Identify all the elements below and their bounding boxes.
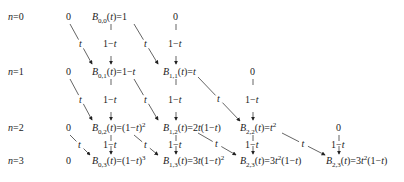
edge-label-one-minus-t: 1−t [245,95,258,105]
edge-label-t: t [144,95,147,105]
zero-node: 0 [66,123,71,133]
zero-node: 0 [173,12,178,22]
node-b02: B0,2(t)=(1−t)2 [92,123,146,133]
node-b22: B2,2(t)=t2 [240,123,276,133]
node-b12: B1,2(t)=2t(1−t) [163,123,221,133]
edge-label-one-minus-t: 1−t [168,95,181,105]
edge-label-t: t [78,140,81,150]
node-b23: B2,3(t)=3t2(1−t) [240,156,301,166]
row-label-n3: n=3 [8,156,24,166]
edge-label-one-minus-t: 1−t [103,95,116,105]
edge-label-one-minus-t: 1−t [103,39,116,49]
edge-label-one-minus-t: 1−t [168,39,181,49]
node-b11: B1,1(t)=t [163,67,196,77]
row-label-n1: n=1 [8,67,24,77]
edge-label-t: t [144,140,147,150]
edge-label-t: t [144,39,147,49]
edge-label-one-minus-t: 1−t [331,140,344,150]
row-label-n0: n=0 [8,12,24,22]
edge-label-one-minus-t: 1−t [103,140,116,150]
edge-label-one-minus-t: 1−t [168,140,181,150]
edge-label-one-minus-t: 1−t [245,140,258,150]
edge-label-t: t [302,139,305,149]
node-b01: B0,1(t)=1−t [92,67,135,77]
node-b13: B1,3(t)=3t(1−t)2 [163,156,224,166]
node-b00: B0,0(t)=1 [92,12,127,22]
edge-label-t: t [79,95,82,105]
zero-node: 0 [66,67,71,77]
edge-label-t: t [215,139,218,149]
zero-node: 0 [250,67,255,77]
edge-label-t: t [79,39,82,49]
bernstein-recursion-diagram: n=0n=1n=2n=30000000B0,0(t)=1B0,1(t)=1−tB… [0,0,404,182]
zero-node: 0 [66,156,71,166]
zero-node: 0 [336,123,341,133]
node-b03: B0,3(t)=(1−t)3 [92,156,146,166]
node-b33: B2,3(t)=3t2(1−t) [326,156,387,166]
edge-label-t: t [217,94,220,104]
zero-node: 0 [66,12,71,22]
row-label-n2: n=2 [8,123,24,133]
